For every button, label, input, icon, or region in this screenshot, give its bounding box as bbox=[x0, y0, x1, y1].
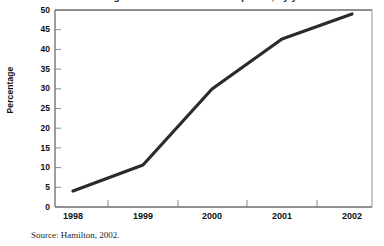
plot-area bbox=[0, 0, 384, 246]
x-tick-label: 2002 bbox=[322, 211, 382, 221]
x-axis-ticks bbox=[108, 200, 317, 207]
x-tick-label: 2000 bbox=[182, 211, 242, 221]
y-axis-ticks bbox=[55, 10, 61, 207]
source-note: Source: Hamilton, 2002. bbox=[31, 230, 120, 240]
x-tick-label: 2001 bbox=[252, 211, 312, 221]
x-tick-label: 1999 bbox=[113, 211, 173, 221]
data-series-line bbox=[73, 14, 352, 191]
x-axis-tick-labels: 1998 1999 2000 2001 2002 bbox=[0, 211, 384, 227]
chart-figure: Percentage of households with computers,… bbox=[0, 0, 384, 246]
x-tick-label: 1998 bbox=[43, 211, 103, 221]
